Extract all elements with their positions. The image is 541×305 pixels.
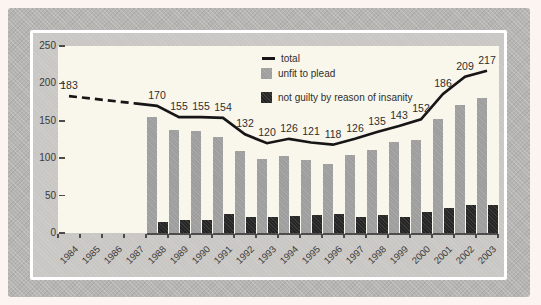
bar-baseline-shadow xyxy=(191,233,212,235)
bar-unfit-1996 xyxy=(323,164,334,233)
legend-label-total: total xyxy=(281,53,300,64)
bar-not-1995 xyxy=(312,215,322,233)
bar-unfit-1991 xyxy=(213,137,224,233)
bar-baseline-shadow xyxy=(147,233,168,235)
bar-baseline-shadow xyxy=(169,233,190,235)
bar-baseline-shadow xyxy=(411,233,432,235)
bar-unfit-1999 xyxy=(389,142,400,233)
legend-label-not-guilty: not guilty by reason of insanity xyxy=(278,92,413,103)
bar-unfit-2002 xyxy=(455,105,466,233)
bar-not-1999 xyxy=(400,217,410,233)
x-axis-tick xyxy=(123,234,125,238)
bar-not-2002 xyxy=(466,205,476,233)
bar-unfit-2001 xyxy=(433,119,444,233)
y-axis-tick xyxy=(59,232,65,234)
x-axis-tick xyxy=(101,234,103,238)
bar-not-1991 xyxy=(224,214,234,233)
y-axis-tick xyxy=(59,157,65,159)
bar-baseline-shadow xyxy=(455,233,476,235)
unfit-square-swatch-icon xyxy=(261,68,272,79)
total-value-label-2001: 186 xyxy=(428,78,458,89)
total-value-label-1984: 183 xyxy=(54,80,84,91)
bar-baseline-shadow xyxy=(433,233,454,235)
legend-item-unfit-to-plead: unfit to plead xyxy=(261,68,335,79)
bar-baseline-shadow xyxy=(235,233,256,235)
bar-unfit-1998 xyxy=(367,150,378,233)
bar-not-1996 xyxy=(334,214,344,233)
y-axis-label: 200 xyxy=(30,78,56,88)
bar-not-1990 xyxy=(202,220,212,233)
total-value-label-1988: 170 xyxy=(142,90,172,101)
y-axis-tick xyxy=(59,45,65,47)
bar-baseline-shadow xyxy=(345,233,366,235)
legend-item-not-guilty: not guilty by reason of insanity xyxy=(261,92,413,103)
bar-not-2000 xyxy=(422,212,432,233)
bar-baseline-shadow xyxy=(257,233,278,235)
y-axis-label: 150 xyxy=(30,116,56,126)
bar-baseline-shadow xyxy=(389,233,410,235)
bar-unfit-1994 xyxy=(279,156,290,233)
bar-unfit-1993 xyxy=(257,159,268,233)
bar-not-1998 xyxy=(378,215,388,233)
y-axis-label: 250 xyxy=(30,41,56,51)
bar-baseline-shadow xyxy=(477,233,498,235)
bar-not-2001 xyxy=(444,208,454,233)
bar-not-2003 xyxy=(488,205,498,233)
chart-figure: total unfit to plead not guilty by reaso… xyxy=(0,0,541,305)
bar-baseline-shadow xyxy=(301,233,322,235)
total-line-swatch-icon xyxy=(262,57,275,60)
not-guilty-square-swatch-icon xyxy=(261,92,272,103)
x-axis-tick xyxy=(79,234,81,238)
bar-baseline-shadow xyxy=(367,233,388,235)
y-axis-label: 100 xyxy=(30,153,56,163)
bar-unfit-1988 xyxy=(147,117,158,233)
x-axis-tick xyxy=(57,234,59,238)
y-axis-tick xyxy=(59,195,65,197)
bar-baseline-shadow xyxy=(279,233,300,235)
bar-baseline-shadow xyxy=(213,233,234,235)
legend-item-total: total xyxy=(261,53,300,64)
bar-not-1994 xyxy=(290,216,300,233)
bar-not-1997 xyxy=(356,217,366,233)
bar-unfit-1995 xyxy=(301,160,312,233)
total-value-label-1991: 154 xyxy=(208,102,238,113)
y-axis-tick xyxy=(59,120,65,122)
y-axis-label: 50 xyxy=(30,191,56,201)
bar-not-1989 xyxy=(180,220,190,233)
bar-baseline-shadow xyxy=(323,233,344,235)
bar-not-1993 xyxy=(268,217,278,233)
legend-label-unfit-to-plead: unfit to plead xyxy=(278,68,335,79)
total-value-label-2000: 152 xyxy=(406,103,436,114)
bar-not-1992 xyxy=(246,217,256,233)
bar-unfit-1989 xyxy=(169,130,180,233)
bar-unfit-2000 xyxy=(411,140,422,233)
y-axis-label: 0 xyxy=(30,228,56,238)
bar-unfit-2003 xyxy=(477,98,488,233)
bar-unfit-1997 xyxy=(345,155,356,233)
bar-unfit-1992 xyxy=(235,151,246,233)
total-value-label-2003: 217 xyxy=(472,55,502,66)
bar-not-1988 xyxy=(158,222,168,233)
bar-unfit-1990 xyxy=(191,131,202,233)
